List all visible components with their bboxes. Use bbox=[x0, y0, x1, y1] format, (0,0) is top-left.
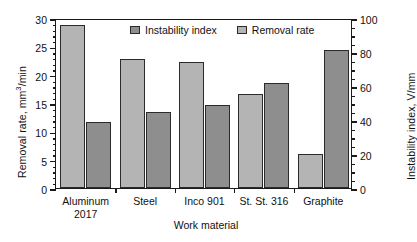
plot-area: 051015202530 020406080100 Aluminum 2017S… bbox=[55, 19, 352, 189]
y-axis-left-minor-tick bbox=[53, 184, 57, 185]
y-axis-left-tick-label: 0 bbox=[41, 185, 47, 196]
bar-removal-rate bbox=[60, 25, 85, 188]
bar-instability-index bbox=[86, 122, 111, 188]
y-axis-left-tick bbox=[50, 48, 56, 49]
y-axis-right-tick-label: 100 bbox=[360, 15, 378, 26]
y-axis-left-tick bbox=[50, 161, 56, 162]
y-axis-left-minor-tick bbox=[53, 110, 57, 111]
legend-item-removal-rate: Removal rate bbox=[237, 24, 314, 36]
y-axis-left-minor-tick bbox=[53, 70, 57, 71]
y-axis-left-minor-tick bbox=[53, 25, 57, 26]
x-axis-title: Work material bbox=[0, 219, 412, 231]
y-axis-left-minor-tick bbox=[53, 155, 57, 156]
x-axis-category-label: Steel bbox=[133, 195, 157, 208]
y-axis-right-minor-tick bbox=[351, 172, 355, 173]
x-axis-tick bbox=[294, 188, 295, 193]
legend-swatch-icon-instability-index bbox=[130, 26, 140, 34]
y-axis-left-minor-tick bbox=[53, 150, 57, 151]
y-axis-right-minor-tick bbox=[351, 62, 355, 63]
y-axis-right-minor-tick bbox=[351, 36, 355, 37]
y-axis-right-minor-tick bbox=[351, 28, 355, 29]
y-axis-left-minor-tick bbox=[53, 59, 57, 60]
y-axis-right-title: Instability index, V/mm bbox=[405, 73, 417, 180]
y-axis-left-tick bbox=[50, 76, 56, 77]
y-axis-left-minor-tick bbox=[53, 42, 57, 43]
y-axis-left-title-tail: /min bbox=[16, 66, 28, 86]
y-axis-left-minor-tick bbox=[53, 65, 57, 66]
y-axis-left-title: Removal rate, mm3/min bbox=[14, 66, 28, 178]
y-axis-left-title-superscript: 3 bbox=[14, 86, 23, 90]
y-axis-right-minor-tick bbox=[351, 96, 355, 97]
y-axis-left-minor-tick bbox=[53, 82, 57, 83]
x-axis-tick bbox=[234, 188, 235, 193]
y-axis-left-minor-tick bbox=[53, 116, 57, 117]
y-axis-left-tick bbox=[50, 189, 56, 190]
y-axis-left-tick-label: 10 bbox=[35, 128, 47, 139]
y-axis-left-tick bbox=[50, 104, 56, 105]
x-axis-category-label: Aluminum 2017 bbox=[62, 195, 109, 220]
y-axis-left-minor-tick bbox=[53, 144, 57, 145]
y-axis-right-minor-tick bbox=[351, 45, 355, 46]
y-axis-right-tick bbox=[351, 155, 357, 156]
chart-legend: Instability index Removal rate bbox=[130, 24, 314, 36]
x-axis-category-label: St. St. 316 bbox=[239, 195, 288, 208]
y-axis-right-minor-tick bbox=[351, 138, 355, 139]
x-axis-tick bbox=[175, 188, 176, 193]
legend-label-removal-rate: Removal rate bbox=[252, 24, 314, 36]
y-axis-right-tick bbox=[351, 189, 357, 190]
x-axis-category-label: Inco 901 bbox=[184, 195, 224, 208]
y-axis-left-minor-tick bbox=[53, 127, 57, 128]
y-axis-right-minor-tick bbox=[351, 147, 355, 148]
bar-removal-rate bbox=[120, 59, 145, 188]
y-axis-left-minor-tick bbox=[53, 31, 57, 32]
y-axis-left-minor-tick bbox=[53, 172, 57, 173]
y-axis-left-tick-label: 25 bbox=[35, 43, 47, 54]
y-axis-right-minor-tick bbox=[351, 104, 355, 105]
y-axis-left-minor-tick bbox=[53, 99, 57, 100]
bar-instability-index bbox=[205, 105, 230, 188]
y-axis-left-minor-tick bbox=[53, 178, 57, 179]
y-axis-right-tick-label: 0 bbox=[360, 185, 366, 196]
x-axis-tick bbox=[115, 188, 116, 193]
y-axis-right-tick-label: 40 bbox=[360, 117, 372, 128]
y-axis-right-tick-label: 20 bbox=[360, 151, 372, 162]
y-axis-right-minor-tick bbox=[351, 181, 355, 182]
y-axis-right-tick bbox=[351, 121, 357, 122]
bar-instability-index bbox=[264, 83, 289, 188]
legend-item-instability-index: Instability index bbox=[130, 24, 217, 36]
y-axis-right-minor-tick bbox=[351, 79, 355, 80]
bar-removal-rate bbox=[298, 154, 323, 188]
bar-instability-index bbox=[324, 50, 349, 188]
y-axis-left-tick-label: 20 bbox=[35, 71, 47, 82]
y-axis-right-tick bbox=[351, 19, 357, 20]
legend-swatch-icon-removal-rate bbox=[237, 26, 247, 34]
y-axis-left-minor-tick bbox=[53, 121, 57, 122]
legend-label-instability-index: Instability index bbox=[145, 24, 217, 36]
x-axis-category-label: Graphite bbox=[303, 195, 343, 208]
y-axis-right-minor-tick bbox=[351, 130, 355, 131]
y-axis-right-minor-tick bbox=[351, 113, 355, 114]
bar-removal-rate bbox=[238, 94, 263, 188]
y-axis-left-minor-tick bbox=[53, 138, 57, 139]
y-axis-left-minor-tick bbox=[53, 93, 57, 94]
y-axis-left-minor-tick bbox=[53, 87, 57, 88]
y-axis-left-minor-tick bbox=[53, 167, 57, 168]
y-axis-right-minor-tick bbox=[351, 164, 355, 165]
y-axis-right-tick bbox=[351, 87, 357, 88]
y-axis-left-tick bbox=[50, 133, 56, 134]
y-axis-left-tick-label: 15 bbox=[35, 100, 47, 111]
bar-instability-index bbox=[146, 112, 171, 189]
y-axis-left-minor-tick bbox=[53, 36, 57, 37]
y-axis-right-tick bbox=[351, 53, 357, 54]
y-axis-left-title-main: Removal rate, mm bbox=[16, 91, 28, 178]
y-axis-left-tick bbox=[50, 19, 56, 20]
y-axis-right-tick-label: 80 bbox=[360, 49, 372, 60]
y-axis-right-minor-tick bbox=[351, 70, 355, 71]
y-axis-left-tick-label: 5 bbox=[41, 156, 47, 167]
bar-removal-rate bbox=[179, 62, 204, 188]
y-axis-left-tick-label: 30 bbox=[35, 15, 47, 26]
y-axis-left-minor-tick bbox=[53, 53, 57, 54]
y-axis-right-tick-label: 60 bbox=[360, 83, 372, 94]
